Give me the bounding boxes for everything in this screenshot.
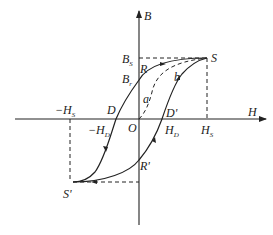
point-r-prime-label: R' — [139, 159, 150, 173]
hd-tick-label: HD — [164, 123, 179, 139]
point-d-label: D — [106, 103, 116, 117]
neg-hd-tick-label: −HD — [88, 123, 110, 139]
point-d-prime-label: D' — [165, 106, 178, 120]
neg-hs-tick-label: −HS — [55, 103, 76, 119]
point-r-label: R — [139, 62, 148, 76]
bs-tick-label: BS — [122, 52, 133, 68]
point-s-label: S — [211, 51, 217, 65]
hs-tick-label: HS — [200, 123, 214, 139]
h-axis-label: H — [247, 105, 258, 119]
b-axis-label: B — [144, 9, 152, 23]
point-s-prime-label: S' — [63, 187, 72, 201]
origin-label: O — [128, 121, 137, 135]
curve-b-label: b — [174, 70, 180, 84]
curve-a-label: a — [143, 92, 149, 106]
hysteresis-diagram: B H O S S' D D' R R' a b BS Br HS −HS HD… — [0, 0, 273, 235]
br-tick-label: Br — [122, 72, 132, 88]
